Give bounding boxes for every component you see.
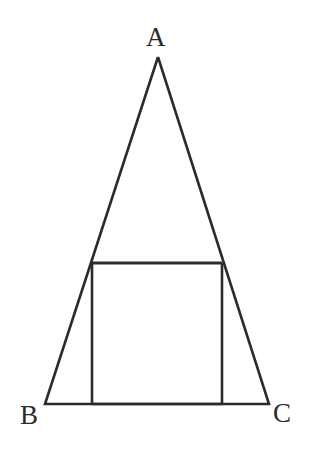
geometry-canvas: [0, 0, 310, 461]
geometry-figure: A B C: [0, 0, 310, 461]
vertex-label-c: C: [273, 400, 291, 427]
triangle-abc-outline: [45, 57, 269, 404]
vertex-label-b: B: [20, 402, 38, 429]
vertex-label-a: A: [146, 24, 166, 51]
